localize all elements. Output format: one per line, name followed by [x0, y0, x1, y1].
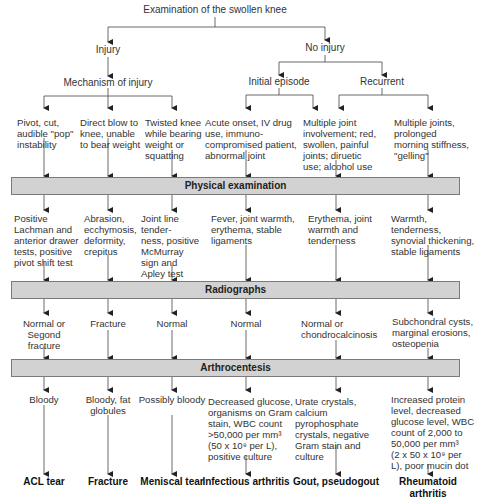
diagnosis-gout-pseudogout: Gout, pseudogout: [291, 476, 381, 488]
arthrocentesis-infectious: Decreased glucose, organisms on Gram sta…: [208, 396, 298, 462]
arthrocentesis-meniscal: Possibly bloody: [137, 394, 207, 405]
radiograph-infectious: Normal: [216, 318, 276, 329]
radiograph-meniscal: Normal: [142, 318, 202, 329]
node-recurrent: Recurrent: [347, 76, 417, 88]
node-mechanism-of-injury: Mechanism of injury: [58, 77, 158, 89]
arthrocentesis-rheumatoid: Increased protein level, decreased gluco…: [391, 394, 477, 471]
radiograph-rheumatoid: Subchondral cysts, marginal erosions, os…: [392, 316, 476, 349]
physical-acl: Positive Lachman and anterior drawer tes…: [14, 213, 82, 268]
arthrocentesis-fracture: Bloody, fat globules: [78, 394, 138, 416]
history-twisted-knee: Twisted knee while bearing weight or squ…: [145, 117, 205, 161]
arthrocentesis-gout: Urate crystals, calcium pyrophosphate cr…: [295, 396, 385, 462]
band-arthrocentesis: Arthrocentesis: [11, 359, 460, 377]
history-direct-blow: Direct blow to knee, unable to bear weig…: [80, 117, 145, 150]
node-no-injury: No injury: [295, 42, 355, 54]
diagnosis-meniscal-tear: Meniscal tear: [137, 476, 207, 488]
history-multiple-joint-involvement: Multiple joint involvement; red, swollen…: [303, 117, 383, 172]
diagnosis-fracture: Fracture: [73, 476, 143, 488]
band-physical-examination: Physical examination: [11, 177, 460, 195]
history-multiple-joints-stiffness: Multiple joints, prolonged morning stiff…: [394, 117, 474, 161]
diagnosis-acl-tear: ACL tear: [9, 476, 79, 488]
physical-fracture: Abrasion, ecchymosis, deformity, crepitu…: [84, 213, 144, 257]
physical-meniscal: Joint line tender- ness, positive McMurr…: [141, 213, 211, 279]
diagnosis-infectious-arthritis: Infectious arthritis: [201, 476, 291, 488]
diagnosis-rheumatoid-arthritis: Rheumatoid arthritis: [393, 476, 463, 500]
radiograph-gout: Normal or chondrocalcinosis: [301, 318, 381, 340]
band-radiographs: Radiographs: [11, 281, 460, 299]
radiograph-acl: Normal or Segond fracture: [14, 318, 74, 351]
arthrocentesis-acl: Bloody: [14, 394, 74, 405]
history-pivot-cut: Pivot, cut, audible "pop" instability: [17, 117, 79, 150]
physical-infectious: Fever, joint warmth, erythema, stable li…: [211, 213, 296, 246]
history-acute-onset: Acute onset, IV drug use, immuno- compro…: [205, 117, 297, 161]
node-initial-episode: Initial episode: [239, 76, 319, 88]
flowchart-title: Examination of the swollen knee: [140, 4, 290, 16]
physical-gout: Erythema, joint warmth and tenderness: [308, 213, 378, 246]
radiograph-fracture: Fracture: [78, 318, 138, 329]
node-injury: Injury: [78, 44, 138, 56]
physical-rheumatoid: Warmth, tenderness, synovial thickening,…: [391, 213, 477, 257]
